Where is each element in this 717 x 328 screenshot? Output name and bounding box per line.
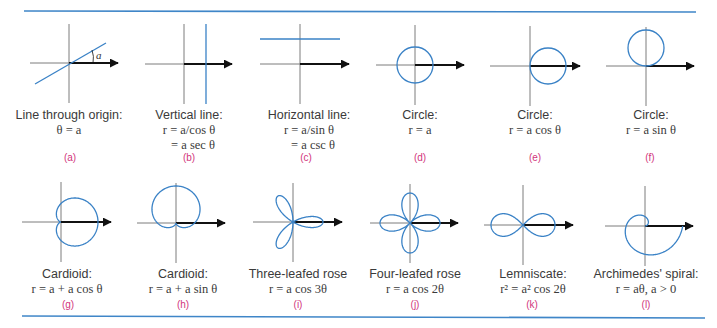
panel-l-title: Archimedes' spiral: xyxy=(593,267,698,281)
panel-k-title: Lemniscate: xyxy=(499,267,566,281)
panel-i-formula: r = a cos 3θ xyxy=(233,282,363,297)
panel-e-letter: (e) xyxy=(515,152,555,163)
panel-d-formula: r = a xyxy=(355,123,485,138)
panel-i-caption: Three-leafed rose r = a cos 3θ xyxy=(233,267,363,297)
panel-b-title: Vertical line: xyxy=(155,108,222,122)
panel-f-caption: Circle: r = a sin θ xyxy=(586,108,716,138)
panel-e-title: Circle: xyxy=(517,108,552,122)
panel-a-letter: (a) xyxy=(50,152,90,163)
panel-l-formula: r = aθ, a > 0 xyxy=(581,282,711,297)
panel-k-graph xyxy=(484,185,573,265)
panel-i-graph xyxy=(253,183,342,262)
panel-k-letter: (k) xyxy=(512,299,552,310)
panel-k-formula: r² = a² cos 2θ xyxy=(468,282,598,297)
panel-c-graph xyxy=(260,24,349,104)
angle-a-label: a xyxy=(96,49,102,61)
panel-f-formula: r = a sin θ xyxy=(586,123,716,138)
panel-d-letter: (d) xyxy=(400,152,440,163)
panel-c-title: Horizontal line: xyxy=(268,108,351,122)
panel-h-formula: r = a + a sin θ xyxy=(118,282,248,297)
panel-c-formula-2: = a csc θ xyxy=(244,138,374,153)
panel-h-graph xyxy=(137,183,225,263)
panel-k-caption: Lemniscate: r² = a² cos 2θ xyxy=(468,267,598,297)
panel-f-title: Circle: xyxy=(633,108,668,122)
top-rule xyxy=(24,11,696,12)
panel-f-letter: (f) xyxy=(630,152,670,163)
panel-h-letter: (h) xyxy=(163,299,203,310)
panel-b-formula-2: = a sec θ xyxy=(124,138,254,153)
panel-e-graph xyxy=(490,26,580,106)
panel-l-letter: (l) xyxy=(626,299,666,310)
panel-g-formula: r = a + a cos θ xyxy=(2,282,132,297)
panel-a-title: Line through origin: xyxy=(15,108,122,122)
panel-e-formula: r = a cos θ xyxy=(470,123,600,138)
panel-j-graph xyxy=(370,184,458,263)
panel-j-letter: (j) xyxy=(395,299,435,310)
panel-l-caption: Archimedes' spiral: r = aθ, a > 0 xyxy=(581,267,711,297)
panel-d-title: Circle: xyxy=(402,108,437,122)
panel-a-caption: Line through origin: θ = a xyxy=(4,108,134,138)
panel-a-formula: θ = a xyxy=(4,123,134,138)
panel-g-graph xyxy=(22,182,111,262)
panel-f-graph xyxy=(606,27,694,106)
panel-i-title: Three-leafed rose xyxy=(249,267,348,281)
panel-j-caption: Four-leafed rose r = a cos 2θ xyxy=(350,267,480,297)
bottom-rule xyxy=(22,316,705,318)
panel-g-title: Cardioid: xyxy=(42,267,92,281)
panel-i-letter: (i) xyxy=(278,299,318,310)
panel-c-letter: (c) xyxy=(286,152,326,163)
panel-b-formula-1: r = a/cos θ xyxy=(124,123,254,138)
panel-j-title: Four-leafed rose xyxy=(369,267,461,281)
panel-h-title: Cardioid: xyxy=(158,267,208,281)
panel-j-formula: r = a cos 2θ xyxy=(350,282,480,297)
panel-b-graph xyxy=(145,24,232,104)
panel-h-caption: Cardioid: r = a + a sin θ xyxy=(118,267,248,297)
panel-d-caption: Circle: r = a xyxy=(355,108,485,138)
panel-d-graph xyxy=(376,25,464,105)
panel-b-caption: Vertical line: r = a/cos θ = a sec θ xyxy=(124,108,254,153)
panel-a-graph: a xyxy=(30,24,118,103)
panel-g-letter: (g) xyxy=(48,299,88,310)
panel-e-caption: Circle: r = a cos θ xyxy=(470,108,600,138)
panel-g-caption: Cardioid: r = a + a cos θ xyxy=(2,267,132,297)
panel-b-letter: (b) xyxy=(169,152,209,163)
panel-l-graph xyxy=(605,186,693,266)
